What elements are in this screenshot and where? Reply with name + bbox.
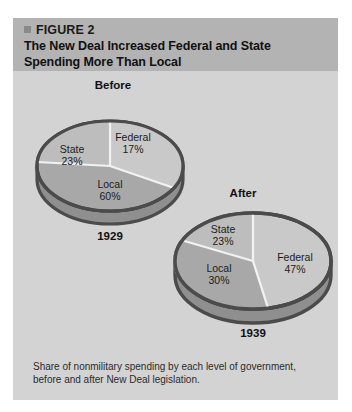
pie-before-label-federal: Federal 17% bbox=[101, 131, 165, 155]
square-bullet-icon bbox=[24, 26, 31, 33]
figure-number-row: FIGURE 2 bbox=[24, 22, 332, 37]
pie-before-label-state: State 23% bbox=[45, 143, 99, 167]
pie-after-year: 1939 bbox=[187, 327, 319, 339]
pie-after-label-federal: Federal 47% bbox=[261, 251, 329, 275]
figure-caption: Share of nonmilitary spending by each le… bbox=[33, 360, 315, 386]
pie-after-label-local: Local 30% bbox=[191, 262, 247, 286]
figure-title-line-2: Spending More Than Local bbox=[24, 55, 332, 71]
figure-header: FIGURE 2 The New Deal Increased Federal … bbox=[13, 18, 338, 71]
pie-chart-after: After bbox=[145, 179, 341, 347]
pie-before-label-local: Local 60% bbox=[79, 178, 141, 202]
chart-stage: Before bbox=[13, 71, 338, 346]
figure-root: FIGURE 2 The New Deal Increased Federal … bbox=[0, 0, 352, 412]
pie-after-label-state: State 23% bbox=[195, 223, 251, 247]
figure-header-content: FIGURE 2 The New Deal Increased Federal … bbox=[24, 22, 332, 70]
figure-number-label: FIGURE 2 bbox=[36, 23, 94, 37]
figure-title-line-1: The New Deal Increased Federal and State bbox=[24, 39, 332, 55]
